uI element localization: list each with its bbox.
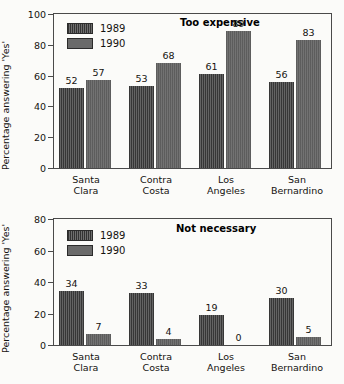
bar-1990-santa-clara: 57 (86, 80, 111, 168)
bar-value-label: 53 (135, 73, 147, 84)
plot-area-bottom: 0 20 40 60 80 Not necessary 1989 1990 34 (53, 218, 332, 346)
y-tick-label: 0 (40, 163, 46, 174)
legend-item-1990: 1990 (67, 245, 125, 256)
x-category-label: Los (198, 351, 254, 362)
bar-1990-los-angeles: 89 (226, 31, 251, 168)
bar-value-label: 5 (305, 324, 311, 335)
chart-panel-too-expensive: Percentage answering 'Yes' 0 20 40 60 80… (0, 0, 344, 205)
chart-title-top: Too expensive (180, 17, 260, 28)
y-tick-label: 100 (28, 9, 46, 20)
legend-bottom: 1989 1990 (67, 230, 125, 260)
bar-1989-los-angeles: 19 (199, 315, 224, 345)
bar-1989-santa-clara: 34 (59, 291, 84, 345)
x-category-label: San (266, 174, 328, 185)
bar-value-label: 19 (205, 302, 217, 313)
bar-1990-san-bernardino: 5 (296, 337, 321, 345)
legend-item-1989: 1989 (67, 230, 125, 241)
chart-title-bottom: Not necessary (176, 223, 256, 234)
bar-value-label: 56 (275, 69, 287, 80)
bar-value-label: 57 (92, 67, 104, 78)
y-tick-label: 80 (34, 39, 46, 50)
y-tick-label: 40 (34, 277, 46, 288)
y-axis-title-top: Percentage answering 'Yes' (0, 156, 11, 170)
bar-value-label: 7 (95, 321, 101, 332)
chart-page: Percentage answering 'Yes' 0 20 40 60 80… (0, 0, 344, 384)
x-category-label: Contra (128, 174, 184, 185)
x-category-label: Clara (58, 362, 114, 373)
bar-value-label: 52 (65, 75, 77, 86)
y-tick-label: 60 (34, 70, 46, 81)
bar-1989-san-bernardino: 56 (269, 82, 294, 168)
bar-1989-los-angeles: 61 (199, 74, 224, 168)
x-category-label: Bernardino (266, 362, 328, 373)
x-category-label: Bernardino (266, 185, 328, 196)
y-tick-label: 80 (34, 214, 46, 225)
bar-1990-contra-costa: 4 (156, 339, 181, 345)
bar-value-label: 61 (205, 61, 217, 72)
bar-1990-santa-clara: 7 (86, 334, 111, 345)
y-tick-label: 20 (34, 308, 46, 319)
x-category-label: Costa (128, 362, 184, 373)
x-category-label: Contra (128, 351, 184, 362)
legend-label-1989: 1989 (100, 23, 125, 34)
x-category-label: San (266, 351, 328, 362)
bar-value-label: 30 (275, 285, 287, 296)
bar-value-label: 89 (232, 18, 244, 29)
bar-value-label: 33 (135, 280, 147, 291)
x-category-label: Angeles (198, 362, 254, 373)
legend-label-1990: 1990 (100, 245, 125, 256)
y-tick-label: 60 (34, 245, 46, 256)
bar-1990-san-bernardino: 83 (296, 40, 321, 168)
bar-1989-santa-clara: 52 (59, 88, 84, 168)
x-category-label: Costa (128, 185, 184, 196)
chart-panel-not-necessary: Percentage answering 'Yes' 0 20 40 60 80… (0, 205, 344, 384)
legend-swatch-1990-icon (67, 38, 93, 49)
bar-value-label: 34 (65, 278, 77, 289)
legend-item-1989: 1989 (67, 23, 125, 34)
plot-area-top: 0 20 40 60 80 100 Too expensive 1989 199… (53, 13, 332, 169)
bar-value-label: 83 (302, 27, 314, 38)
legend-swatch-1990-icon (67, 245, 93, 256)
bar-1989-contra-costa: 53 (129, 86, 154, 168)
legend-swatch-1989-icon (67, 23, 93, 34)
bar-1989-contra-costa: 33 (129, 293, 154, 345)
x-category-label: Clara (58, 185, 114, 196)
y-tick-label: 20 (34, 132, 46, 143)
y-tick-label: 40 (34, 101, 46, 112)
legend-item-1990: 1990 (67, 38, 125, 49)
y-tick-label: 0 (40, 340, 46, 351)
bar-value-label: 4 (165, 326, 171, 337)
bar-value-label: 68 (162, 50, 174, 61)
x-category-label: Los (198, 174, 254, 185)
x-category-label: Santa (58, 351, 114, 362)
bar-1989-san-bernardino: 30 (269, 298, 294, 345)
bar-value-label: 0 (235, 332, 241, 343)
legend-label-1990: 1990 (100, 38, 125, 49)
x-category-label: Angeles (198, 185, 254, 196)
legend-top: 1989 1990 (67, 23, 125, 53)
y-axis-title-bottom: Percentage answering 'Yes' (0, 339, 11, 353)
x-category-label: Santa (58, 174, 114, 185)
legend-swatch-1989-icon (67, 230, 93, 241)
legend-label-1989: 1989 (100, 230, 125, 241)
bar-1990-contra-costa: 68 (156, 63, 181, 168)
